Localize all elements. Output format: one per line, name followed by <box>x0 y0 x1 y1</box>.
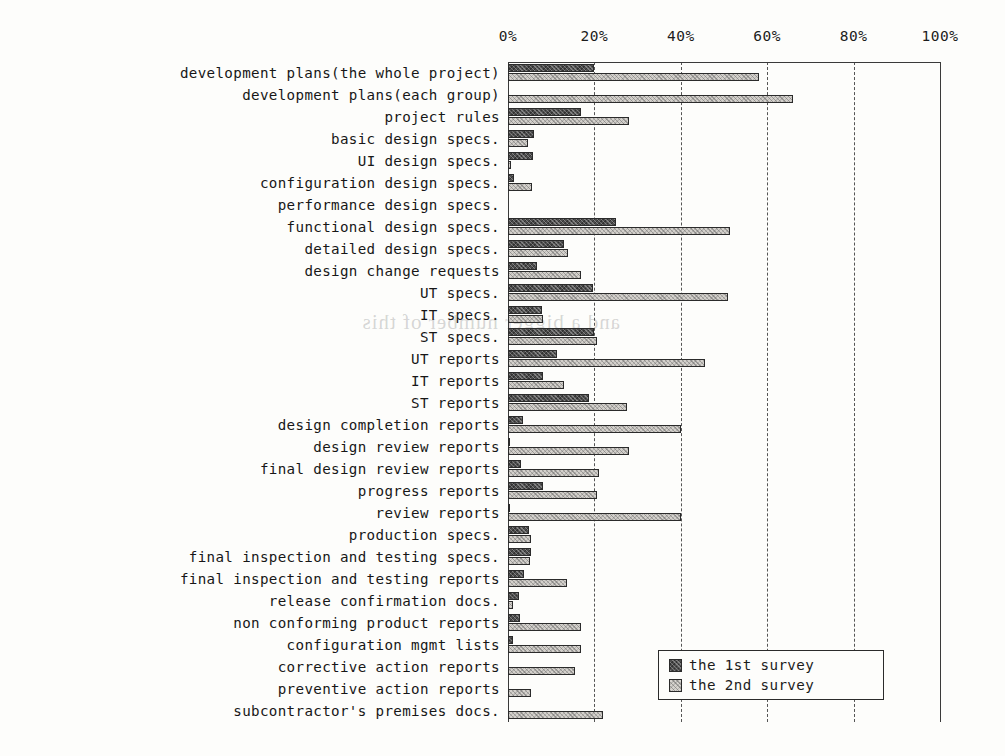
bar-series-1 <box>508 570 524 578</box>
chart-row: design completion reports <box>0 414 1005 436</box>
bar-series-1 <box>508 262 537 270</box>
bar-series-2 <box>508 557 530 565</box>
bar-group <box>508 62 940 84</box>
bar-group <box>508 260 940 282</box>
bar-group <box>508 84 940 106</box>
category-label: preventive action reports <box>278 681 500 697</box>
bar-group <box>508 414 940 436</box>
dark-hatch-swatch-icon <box>669 659 682 672</box>
x-tick-label-60: 60% <box>753 28 781 44</box>
category-label: UT reports <box>411 351 500 367</box>
chart-legend: the 1st survey the 2nd survey <box>658 650 884 700</box>
chart-row: final inspection and testing reports <box>0 568 1005 590</box>
chart-row: final design review reports <box>0 458 1005 480</box>
bar-series-2 <box>508 227 730 235</box>
bar-series-2 <box>508 403 627 411</box>
chart-row: ST specs. <box>0 326 1005 348</box>
chart-row: non conforming product reports <box>0 612 1005 634</box>
bar-series-1 <box>508 152 533 160</box>
chart-row: release confirmation docs. <box>0 590 1005 612</box>
bar-series-2 <box>508 513 681 521</box>
category-label: project rules <box>384 109 500 125</box>
category-label: subcontractor's premises docs. <box>233 703 500 719</box>
bar-series-1 <box>508 614 520 622</box>
category-label: configuration mgmt lists <box>287 637 500 653</box>
chart-row: progress reports <box>0 480 1005 502</box>
bar-series-2 <box>508 337 597 345</box>
bar-series-2 <box>508 271 581 279</box>
bar-series-1 <box>508 372 543 380</box>
bar-series-2 <box>508 315 543 323</box>
category-label: UI design specs. <box>358 153 500 169</box>
x-axis-tick-labels: 0%20%40%60%80%100% <box>0 28 1005 50</box>
bar-group <box>508 568 940 590</box>
chart-row: basic design specs. <box>0 128 1005 150</box>
bar-series-1 <box>508 108 581 116</box>
bar-series-2 <box>508 469 599 477</box>
bar-series-1 <box>508 482 543 490</box>
chart-row: UT reports <box>0 348 1005 370</box>
bar-group <box>508 436 940 458</box>
bar-series-1 <box>508 394 589 402</box>
bar-series-1 <box>508 592 519 600</box>
bar-series-1 <box>508 64 594 72</box>
bar-series-2 <box>508 293 728 301</box>
bar-series-2 <box>508 381 564 389</box>
bar-series-1 <box>508 350 557 358</box>
category-label: corrective action reports <box>278 659 500 675</box>
chart-row: detailed design specs. <box>0 238 1005 260</box>
bar-series-2 <box>508 535 531 543</box>
category-label: review reports <box>376 505 500 521</box>
bar-series-1 <box>508 504 510 512</box>
bar-series-2 <box>508 139 528 147</box>
bar-series-2 <box>508 711 603 719</box>
bar-group <box>508 458 940 480</box>
bar-group <box>508 524 940 546</box>
bar-series-2 <box>508 425 681 433</box>
bar-series-1 <box>508 548 531 556</box>
x-tick-label-20: 20% <box>581 28 609 44</box>
bar-group <box>508 370 940 392</box>
category-label: release confirmation docs. <box>269 593 500 609</box>
category-label: UT specs. <box>420 285 500 301</box>
bar-series-1 <box>508 438 510 446</box>
bar-series-2 <box>508 95 793 103</box>
x-tick-label-40: 40% <box>667 28 695 44</box>
chart-row: development plans(each group) <box>0 84 1005 106</box>
chart-row: review reports <box>0 502 1005 524</box>
legend-label-series-1: the 1st survey <box>689 657 814 673</box>
bar-series-2 <box>508 117 629 125</box>
bar-group <box>508 348 940 370</box>
chart-row: ST reports <box>0 392 1005 414</box>
bar-group <box>508 612 940 634</box>
category-label: basic design specs. <box>331 131 500 147</box>
bar-group <box>508 304 940 326</box>
bar-group <box>508 326 940 348</box>
bar-series-2 <box>508 689 531 697</box>
bar-group <box>508 106 940 128</box>
bar-group <box>508 128 940 150</box>
category-label: configuration design specs. <box>260 175 500 191</box>
chart-row: production specs. <box>0 524 1005 546</box>
chart-rows: development plans(the whole project)deve… <box>0 62 1005 722</box>
category-label: design change requests <box>304 263 500 279</box>
chart-row: configuration design specs. <box>0 172 1005 194</box>
bar-group <box>508 392 940 414</box>
x-tick-label-0: 0% <box>499 28 517 44</box>
chart-row: performance design specs. <box>0 194 1005 216</box>
category-label: development plans(each group) <box>242 87 500 103</box>
bar-series-1 <box>508 284 593 292</box>
category-label: performance design specs. <box>278 197 500 213</box>
legend-label-series-2: the 2nd survey <box>689 677 814 693</box>
bar-series-2 <box>508 645 581 653</box>
bar-group <box>508 216 940 238</box>
category-label: production specs. <box>349 527 500 543</box>
chart-row: UT specs. <box>0 282 1005 304</box>
chart-row: IT reports <box>0 370 1005 392</box>
bar-group <box>508 238 940 260</box>
category-label: design review reports <box>313 439 500 455</box>
category-label: detailed design specs. <box>304 241 500 257</box>
bar-series-2 <box>508 73 759 81</box>
bar-group <box>508 700 940 722</box>
bar-series-2 <box>508 491 597 499</box>
